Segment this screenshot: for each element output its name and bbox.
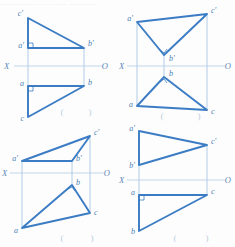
label-axis-x-q1: X [3, 61, 10, 71]
label-axis-o-q4: O [225, 175, 231, 185]
caption-paren-left-q4: ( [174, 233, 177, 243]
label-c-q1: c [20, 114, 24, 123]
label-a-q3: a [14, 226, 18, 235]
label-b-q2: b [169, 69, 173, 78]
caption-paren-right-q1: ) [89, 107, 92, 117]
label-c-q4: c [211, 187, 215, 196]
caption-paren-right-q2: ) [198, 111, 201, 121]
label-c-q3: c [94, 208, 98, 217]
drawing-sheet: ……………… ………… ………… c' [0, 0, 235, 247]
label-b-prime-q3: b' [76, 154, 82, 163]
label-b-q1: b [88, 78, 92, 87]
label-axis-o-q1: O [102, 61, 108, 71]
label-c-prime-q2: c' [211, 6, 217, 15]
figure-quadrant-1: c' a' b' a b c X O ( ) [0, 0, 117, 123]
figure-quadrant-3: c' a' b' b c a X O ( ) [0, 123, 117, 246]
right-angle-marker-icon [28, 43, 33, 91]
label-b-prime-q2: b' [169, 54, 175, 63]
label-c-q2: c [211, 107, 215, 116]
figure-quadrant-4: a' c' b' a c b X O ( ) [117, 123, 234, 246]
label-axis-o-q3: O [104, 168, 110, 178]
lower-triangle-q3 [22, 185, 90, 228]
caption-paren-left-q3: ( [61, 233, 64, 243]
label-c-prime-q3: c' [94, 128, 100, 137]
caption-paren-left-q1: ( [61, 107, 64, 117]
figure-quadrant-2: a' c' b' b a c X O ( ) [117, 0, 234, 123]
label-axis-x-q2: X [118, 61, 125, 71]
caption-paren-right-q4: ) [206, 233, 209, 243]
label-a-q1: a [20, 79, 24, 88]
upper-triangle-q2 [137, 14, 207, 55]
construction-lines-q4 [139, 131, 207, 231]
label-c-prime-q4: c' [211, 137, 217, 146]
label-a-prime-q1: a' [18, 41, 24, 50]
label-a-prime-q2: a' [127, 14, 133, 23]
label-b-prime-q1: b' [88, 39, 94, 48]
caption-paren-left-q2: ( [161, 111, 164, 121]
lower-triangle-q1 [28, 86, 84, 117]
label-b-q4: b [131, 227, 135, 236]
upper-triangle-q1 [28, 18, 84, 48]
label-axis-x-q4: X [118, 175, 125, 185]
label-b-q3: b [76, 178, 80, 187]
lower-triangle-q2 [137, 77, 207, 110]
caption-paren-right-q3: ) [91, 233, 94, 243]
label-a-prime-q3: a' [12, 154, 18, 163]
upper-triangle-q4 [139, 131, 207, 165]
label-axis-x-q3: X [1, 168, 8, 178]
label-c-prime-q1: c' [18, 9, 24, 18]
label-axis-o-q2: O [225, 61, 231, 71]
lower-triangle-q4 [139, 195, 207, 231]
label-b-prime-q4: b' [129, 161, 135, 170]
label-a-q4: a [131, 188, 135, 197]
label-a-prime-q4: a' [129, 124, 135, 133]
label-a-q2: a [129, 100, 133, 109]
